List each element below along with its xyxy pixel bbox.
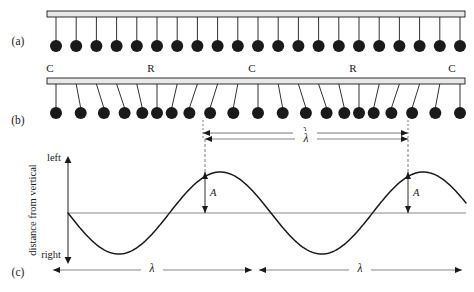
compression-rarefaction-labels: CRCRC [46, 62, 455, 74]
panel-a-group: (a) [12, 11, 466, 52]
pendulum-rod [278, 84, 283, 108]
pendulum-bob [414, 40, 426, 52]
wavelength-label: λ [149, 262, 155, 274]
pendulum-bob [313, 40, 325, 52]
pendulum-displaced [75, 84, 87, 119]
figure-root: (a) CRCRC (b) λ [0, 0, 474, 292]
pendulum-bob [321, 107, 333, 119]
y-axis-label-right: right [41, 249, 61, 260]
support-bar-a [47, 11, 465, 17]
pendulum-rod [412, 84, 420, 108]
pendulum-bob [191, 40, 203, 52]
pendulum-bob [212, 40, 224, 52]
pendulum-displaced [117, 84, 131, 119]
pendulum-bob [333, 40, 345, 52]
amplitude-arrow-down [405, 206, 411, 213]
pendulum-bob [50, 107, 62, 119]
wavelength-arrow-right [455, 267, 462, 273]
y-axis-title: distance from vertical [27, 164, 38, 256]
pendulum-rod [117, 84, 125, 108]
pendulum-undisturbed [414, 17, 426, 52]
lambda-b-arrow-left [203, 130, 210, 136]
pendulum-bob [136, 107, 148, 119]
lambda-top-label: λ [303, 132, 309, 144]
pendulum-displaced [319, 84, 333, 119]
pendulum-bob [252, 107, 264, 119]
pendulum-displaced [454, 84, 466, 119]
pendulum-bob [171, 40, 183, 52]
y-axis-label-left: left [47, 152, 61, 163]
compression-label: C [248, 62, 255, 74]
pendulum-bob [272, 40, 284, 52]
amplitude-arrow-down [202, 206, 208, 213]
pendulum-displaced [166, 84, 178, 119]
pendulum-bob [429, 107, 441, 119]
pendulum-displaced [136, 84, 148, 119]
pendulum-undisturbed [252, 17, 264, 52]
amplitude-right: A [405, 172, 420, 213]
pendulum-displaced [406, 84, 420, 119]
pendulum-bob [338, 107, 350, 119]
pendulum-undisturbed [50, 17, 62, 52]
pendulum-undisturbed [353, 17, 365, 52]
pendulum-undisturbed [232, 17, 244, 52]
pendulum-bob [119, 107, 131, 119]
pendulum-bob [373, 40, 385, 52]
pendulum-displaced [277, 84, 289, 119]
pendulum-rod [435, 84, 440, 108]
pendulum-bob [131, 40, 143, 52]
pendulum-rod [391, 84, 399, 108]
pendulum-displaced [252, 84, 264, 119]
pendulum-bob [300, 107, 312, 119]
pendulum-bob [232, 40, 244, 52]
pendulum-bob [98, 107, 110, 119]
amplitude-label: A [412, 187, 420, 198]
wavelength-label: λ [357, 262, 363, 274]
pendulum-bob [252, 40, 264, 52]
pendulum-row-displaced [50, 84, 466, 119]
support-bar-b [47, 78, 465, 84]
pendulum-rod [96, 84, 104, 108]
pendulum-displaced [429, 84, 441, 119]
pendulum-undisturbed [393, 17, 405, 52]
pendulum-bob [353, 40, 365, 52]
pendulum-bob [166, 107, 178, 119]
bottom-wavelength-markers: λλ [53, 261, 462, 275]
lambda-bottom-left: λ [53, 261, 252, 275]
y-axis-arrow-up [65, 156, 72, 163]
pendulum-bob [393, 40, 405, 52]
compression-label: C [46, 62, 53, 74]
pendulum-displaced [338, 84, 350, 119]
pendulum-undisturbed [434, 17, 446, 52]
pendulum-bob [183, 107, 195, 119]
pendulum-bob [70, 40, 82, 52]
pendulum-rod [233, 84, 238, 108]
pendulum-rod [210, 84, 218, 108]
pendulum-undisturbed [454, 17, 466, 52]
pendulum-bob [353, 107, 365, 119]
pendulum-undisturbed [313, 17, 325, 52]
pendulum-displaced [227, 84, 239, 119]
pendulum-bob [292, 40, 304, 52]
pendulum-displaced [151, 84, 163, 119]
pendulum-rod [319, 84, 327, 108]
pendulum-bob [204, 107, 216, 119]
pendulum-bob [227, 107, 239, 119]
longitudinal-wave-figure: (a) CRCRC (b) λ [0, 0, 474, 292]
pendulum-bob [90, 40, 102, 52]
pendulum-undisturbed [212, 17, 224, 52]
compression-label: C [448, 62, 455, 74]
pendulum-undisturbed [373, 17, 385, 52]
pendulum-undisturbed [70, 17, 82, 52]
pendulum-displaced [368, 84, 380, 119]
pendulum-undisturbed [292, 17, 304, 52]
panel-tag-b: (b) [11, 114, 25, 127]
pendulum-bob [454, 40, 466, 52]
y-axis-arrow-down [65, 257, 72, 264]
pendulum-row-undisturbed [50, 17, 466, 52]
amplitude-left: A [202, 172, 217, 213]
pendulum-bob [75, 107, 87, 119]
pendulum-rod [76, 84, 81, 108]
pendulum-rod [172, 84, 178, 108]
pendulum-bob [454, 107, 466, 119]
